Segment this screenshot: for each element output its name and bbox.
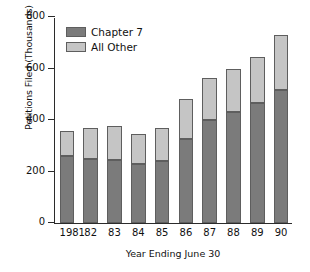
bar-segment-all-other[interactable] — [179, 99, 194, 140]
legend-item-label: All Other — [91, 41, 137, 53]
legend-item-label: Chapter 7 — [91, 26, 143, 38]
bar-segment-chapter-7[interactable] — [202, 120, 217, 223]
y-axis-tick: 600 — [48, 68, 55, 69]
chart-legend: Chapter 7All Other — [66, 26, 143, 56]
bar-segment-all-other[interactable] — [107, 126, 122, 159]
y-axis-tick: 200 — [48, 171, 55, 172]
bar-segment-chapter-7[interactable] — [274, 90, 289, 223]
bar-segment-all-other[interactable] — [60, 131, 75, 156]
bar-group[interactable]: 90 — [274, 17, 289, 223]
legend-swatch-icon — [66, 27, 86, 37]
x-axis-tick-label: 85 — [155, 227, 170, 238]
bar-group[interactable]: 89 — [250, 17, 265, 223]
y-axis-tick: 800 — [48, 16, 55, 17]
bar-group[interactable]: 85 — [155, 17, 170, 223]
legend-item[interactable]: Chapter 7 — [66, 26, 143, 38]
x-axis-tick-label: 1981 — [60, 227, 75, 238]
x-axis-tick-label: 82 — [83, 227, 98, 238]
x-axis-tick-label: 89 — [250, 227, 265, 238]
y-axis-tick-label: 400 — [26, 113, 45, 124]
bankruptcy-petitions-stacked-bar-chart: Petitions Filed (Thousands) 020040060080… — [0, 0, 310, 272]
y-axis-tick: 400 — [48, 119, 55, 120]
y-axis-tick: 0 — [48, 222, 55, 223]
bar-segment-all-other[interactable] — [250, 57, 265, 103]
bar-segment-chapter-7[interactable] — [107, 160, 122, 223]
bar-group[interactable]: 86 — [179, 17, 194, 223]
bar-segment-all-other[interactable] — [202, 78, 217, 120]
bar-segment-chapter-7[interactable] — [226, 112, 241, 223]
x-axis-tick-label: 83 — [107, 227, 122, 238]
bar-group[interactable]: 87 — [202, 17, 217, 223]
bar-segment-chapter-7[interactable] — [250, 103, 265, 223]
bar-segment-all-other[interactable] — [83, 128, 98, 158]
y-axis-tick-label: 800 — [26, 10, 45, 21]
legend-swatch-icon — [66, 42, 86, 52]
x-axis-tick-label: 87 — [202, 227, 217, 238]
x-axis-tick-label: 86 — [179, 227, 194, 238]
bar-segment-all-other[interactable] — [274, 35, 289, 90]
legend-item[interactable]: All Other — [66, 41, 143, 53]
x-axis-tick-label: 90 — [274, 227, 289, 238]
y-axis-tick-label: 200 — [26, 165, 45, 176]
bar-segment-chapter-7[interactable] — [60, 156, 75, 223]
bar-segment-chapter-7[interactable] — [131, 164, 146, 223]
bar-segment-all-other[interactable] — [155, 128, 170, 161]
bar-segment-chapter-7[interactable] — [155, 161, 170, 223]
bar-segment-all-other[interactable] — [131, 134, 146, 164]
x-axis-tick-label: 88 — [226, 227, 241, 238]
y-axis-tick-label: 0 — [39, 216, 45, 227]
bar-segment-chapter-7[interactable] — [179, 139, 194, 223]
bar-group[interactable]: 88 — [226, 17, 241, 223]
y-axis-title: Petitions Filed (Thousands) — [23, 0, 34, 158]
bar-segment-all-other[interactable] — [226, 69, 241, 113]
y-axis-tick-label: 600 — [26, 62, 45, 73]
bar-segment-chapter-7[interactable] — [83, 159, 98, 223]
x-axis-tick-label: 84 — [131, 227, 146, 238]
x-axis-title: Year Ending June 30 — [54, 248, 292, 259]
